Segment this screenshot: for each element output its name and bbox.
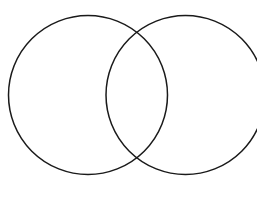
venn-diagram-svg [0, 0, 257, 197]
venn-diagram-canvas [0, 0, 257, 197]
